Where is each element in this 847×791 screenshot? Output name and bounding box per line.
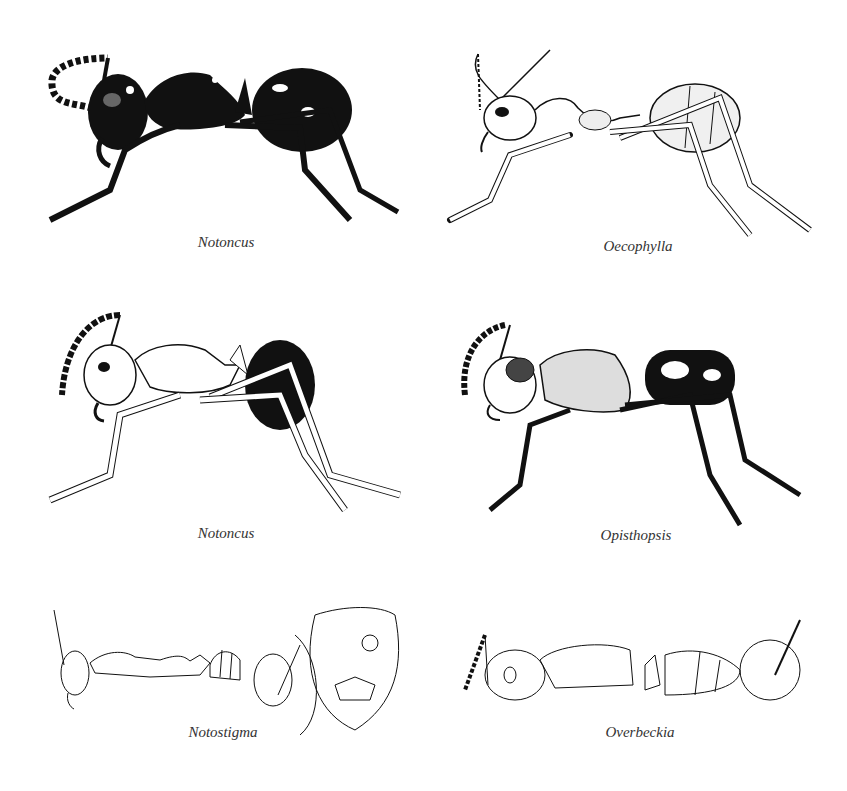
caption-overbeckia: Overbeckia — [605, 724, 674, 741]
figure-oecophylla — [440, 40, 840, 240]
line-drawing-overbeckia — [455, 610, 825, 710]
ant-illustration-dark — [40, 40, 420, 230]
caption-oecophylla: Oecophylla — [603, 238, 672, 255]
figure-notoncus-dark — [40, 40, 420, 230]
figure-overbeckia — [455, 610, 825, 710]
caption-notoncus-2: Notoncus — [198, 525, 255, 542]
ant-illustration-opisthopsis — [450, 315, 840, 525]
line-drawing-notostigma — [50, 595, 410, 730]
illustration-plate: Notoncus Oecophylla — [0, 0, 847, 791]
figure-opisthopsis — [450, 315, 840, 525]
figure-notoncus-pale — [40, 305, 420, 515]
ant-illustration-notoncus-pale — [40, 305, 420, 515]
caption-notostigma: Notostigma — [188, 724, 257, 741]
ant-illustration-oecophylla — [440, 40, 840, 240]
caption-notoncus-1: Notoncus — [198, 234, 255, 251]
figure-notostigma — [50, 595, 410, 730]
caption-opisthopsis: Opisthopsis — [601, 527, 672, 544]
